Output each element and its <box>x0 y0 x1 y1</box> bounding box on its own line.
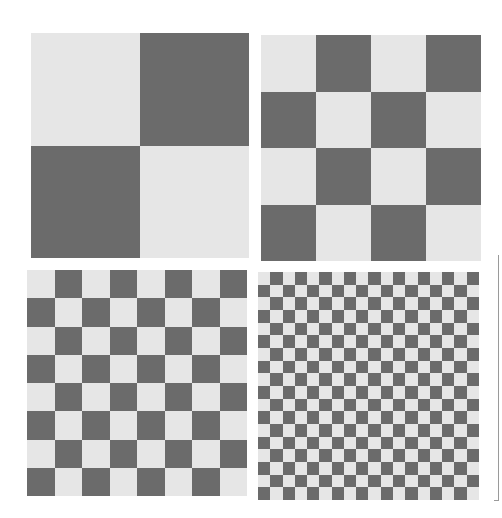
checker-cell <box>319 323 331 336</box>
checker-cell <box>319 411 331 424</box>
checker-cell <box>55 468 83 496</box>
checker-cell <box>393 449 405 462</box>
checker-cell <box>393 361 405 374</box>
checker-cell <box>295 310 307 323</box>
checker-cell <box>454 462 466 475</box>
checker-cell <box>454 348 466 361</box>
checker-cell <box>454 323 466 336</box>
checker-cell <box>430 285 442 298</box>
checker-cell <box>270 475 282 488</box>
checker-cell <box>467 411 479 424</box>
checker-cell <box>295 323 307 336</box>
checker-cell <box>295 475 307 488</box>
checker-cell <box>393 297 405 310</box>
checker-cell <box>82 270 110 298</box>
checker-cell <box>332 323 344 336</box>
checker-cell <box>319 348 331 361</box>
checker-cell <box>258 310 270 323</box>
checker-cell <box>220 355 248 383</box>
checker-cell <box>27 383 55 411</box>
checker-cell <box>295 437 307 450</box>
checker-cell <box>295 373 307 386</box>
checker-cell <box>192 411 220 439</box>
checker-cell <box>454 272 466 285</box>
checker-cell <box>258 297 270 310</box>
checker-cell <box>356 323 368 336</box>
checker-cell <box>295 449 307 462</box>
checker-cell <box>332 272 344 285</box>
checker-cell <box>381 411 393 424</box>
checker-cell <box>165 355 193 383</box>
checker-cell <box>283 361 295 374</box>
checker-cell <box>467 487 479 500</box>
checker-cell <box>368 487 380 500</box>
checker-cell <box>140 33 249 146</box>
checker-cell <box>418 487 430 500</box>
checker-cell <box>270 424 282 437</box>
checker-cell <box>82 440 110 468</box>
checker-cell <box>258 424 270 437</box>
checker-cell <box>467 462 479 475</box>
checker-cell <box>332 399 344 412</box>
checker-cell <box>55 440 83 468</box>
checker-cell <box>307 285 319 298</box>
checker-cell <box>110 383 138 411</box>
checker-cell <box>316 92 371 149</box>
checker-cell <box>442 348 454 361</box>
checker-cell <box>258 272 270 285</box>
checker-cell <box>454 285 466 298</box>
checker-cell <box>27 440 55 468</box>
checker-cell <box>381 310 393 323</box>
checker-cell <box>332 361 344 374</box>
checker-cell <box>283 399 295 412</box>
checker-cell <box>454 335 466 348</box>
checker-cell <box>454 297 466 310</box>
checker-cell <box>283 462 295 475</box>
checker-cell <box>307 424 319 437</box>
checker-cell <box>381 437 393 450</box>
checker-cell <box>368 475 380 488</box>
checker-cell <box>137 468 165 496</box>
checker-cell <box>307 310 319 323</box>
checker-cell <box>430 348 442 361</box>
checker-cell <box>319 373 331 386</box>
checker-cell <box>442 297 454 310</box>
checker-cell <box>220 440 248 468</box>
checker-cell <box>258 487 270 500</box>
checker-cell <box>430 399 442 412</box>
checker-cell <box>418 386 430 399</box>
checker-cell <box>192 327 220 355</box>
checker-cell <box>430 424 442 437</box>
checker-cell <box>295 297 307 310</box>
checker-cell <box>371 148 426 205</box>
checker-cell <box>430 272 442 285</box>
checker-cell <box>332 487 344 500</box>
checker-cell <box>283 449 295 462</box>
checker-cell <box>110 411 138 439</box>
checker-cell <box>405 399 417 412</box>
checker-cell <box>405 411 417 424</box>
checker-cell <box>165 383 193 411</box>
checker-cell <box>442 487 454 500</box>
checker-cell <box>332 348 344 361</box>
checker-cell <box>418 462 430 475</box>
checker-cell <box>356 449 368 462</box>
checker-cell <box>220 468 248 496</box>
checker-cell <box>307 386 319 399</box>
checker-cell <box>393 335 405 348</box>
checker-cell <box>55 298 83 326</box>
checker-cell <box>319 272 331 285</box>
checker-cell <box>344 272 356 285</box>
checker-cell <box>332 424 344 437</box>
checker-cell <box>270 386 282 399</box>
checker-cell <box>258 386 270 399</box>
checker-cell <box>405 386 417 399</box>
checker-cell <box>368 361 380 374</box>
checker-cell <box>27 327 55 355</box>
checker-cell <box>405 310 417 323</box>
checker-cell <box>27 411 55 439</box>
checker-cell <box>467 310 479 323</box>
checker-cell <box>283 373 295 386</box>
checker-cell <box>140 146 249 259</box>
checker-cell <box>381 386 393 399</box>
